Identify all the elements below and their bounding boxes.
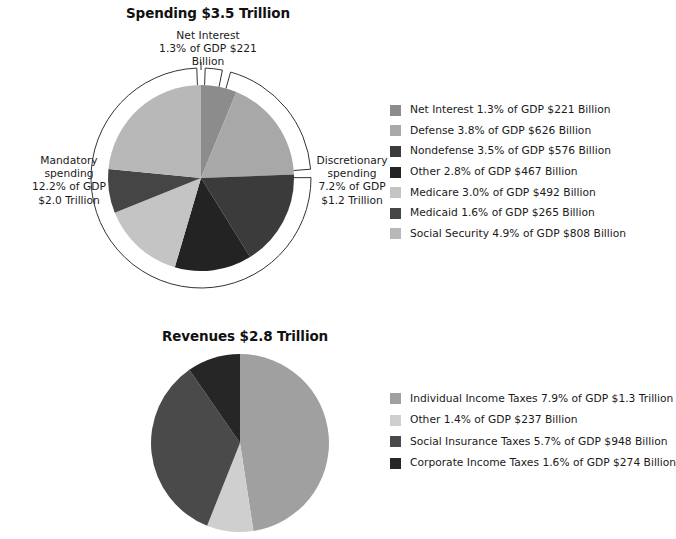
spending-slice-social-security — [108, 85, 201, 178]
spending-legend-label: Nondefense 3.5% of GDP $576 Billion — [410, 145, 611, 157]
revenues-legend-swatch-1 — [390, 415, 401, 426]
spending-slice-group — [108, 85, 294, 271]
spending-legend-label: Defense 3.8% of GDP $626 Billion — [410, 125, 591, 137]
revenues-legend: Individual Income Taxes 7.9% of GDP $1.3… — [390, 388, 676, 474]
spending-pie-svg — [88, 62, 314, 294]
revenues-legend-swatch-3 — [390, 458, 401, 469]
revenues-legend-label: Individual Income Taxes 7.9% of GDP $1.3… — [410, 393, 673, 405]
spending-legend-label: Net Interest 1.3% of GDP $221 Billion — [410, 104, 610, 116]
revenues-chart-title: Revenues $2.8 Trillion — [135, 328, 355, 344]
discretionary-bracket-tick-0 — [226, 72, 231, 88]
spending-legend-swatch-6 — [390, 228, 401, 239]
revenues-pie-svg — [147, 350, 333, 536]
net-interest-bracket-tick-1 — [219, 70, 222, 87]
spending-legend-row: Net Interest 1.3% of GDP $221 Billion — [390, 100, 626, 121]
revenues-legend-label: Other 1.4% of GDP $237 Billion — [410, 414, 577, 426]
revenues-pie — [147, 350, 333, 536]
revenues-slice-individual-income-taxes — [240, 354, 329, 531]
spending-legend-row: Medicaid 1.6% of GDP $265 Billion — [390, 203, 626, 224]
revenues-legend-label: Corporate Income Taxes 1.6% of GDP $274 … — [410, 457, 676, 469]
discretionary-spending-callout: Discretionary spending 7.2% of GDP $1.2 … — [300, 154, 404, 207]
spending-pie — [88, 62, 314, 294]
revenues-legend-label: Social Insurance Taxes 5.7% of GDP $948 … — [410, 436, 667, 448]
discretionary-bracket-tick-1 — [294, 169, 311, 170]
spending-legend-label: Medicare 3.0% of GDP $492 Billion — [410, 187, 596, 199]
net-interest-bracket-tick-0 — [205, 68, 206, 85]
spending-legend-label: Medicaid 1.6% of GDP $265 Billion — [410, 207, 595, 219]
revenues-legend-row: Individual Income Taxes 7.9% of GDP $1.3… — [390, 388, 676, 410]
spending-legend-swatch-0 — [390, 105, 401, 116]
revenues-legend-row: Corporate Income Taxes 1.6% of GDP $274 … — [390, 453, 676, 475]
spending-legend-label: Social Security 4.9% of GDP $808 Billion — [410, 228, 626, 240]
spending-legend-swatch-2 — [390, 146, 401, 157]
spending-chart-title: Spending $3.5 Trillion — [98, 5, 318, 21]
spending-legend-swatch-4 — [390, 187, 401, 198]
revenues-legend-swatch-0 — [390, 393, 401, 404]
spending-legend-row: Medicare 3.0% of GDP $492 Billion — [390, 182, 626, 203]
spending-legend-swatch-5 — [390, 208, 401, 219]
spending-legend-row: Other 2.8% of GDP $467 Billion — [390, 162, 626, 183]
spending-legend-row: Defense 3.8% of GDP $626 Billion — [390, 121, 626, 142]
revenues-legend-row: Other 1.4% of GDP $237 Billion — [390, 410, 676, 432]
spending-legend-label: Other 2.8% of GDP $467 Billion — [410, 166, 577, 178]
spending-legend: Net Interest 1.3% of GDP $221 BillionDef… — [390, 100, 626, 244]
revenues-legend-row: Social Insurance Taxes 5.7% of GDP $948 … — [390, 431, 676, 453]
revenues-legend-swatch-2 — [390, 436, 401, 447]
spending-legend-swatch-3 — [390, 167, 401, 178]
revenues-slice-group — [151, 354, 329, 532]
spending-legend-swatch-1 — [390, 125, 401, 136]
spending-legend-row: Nondefense 3.5% of GDP $576 Billion — [390, 141, 626, 162]
mandatory-bracket-tick-1 — [197, 68, 198, 85]
net-interest-bracket — [205, 68, 222, 70]
spending-legend-row: Social Security 4.9% of GDP $808 Billion — [390, 224, 626, 245]
